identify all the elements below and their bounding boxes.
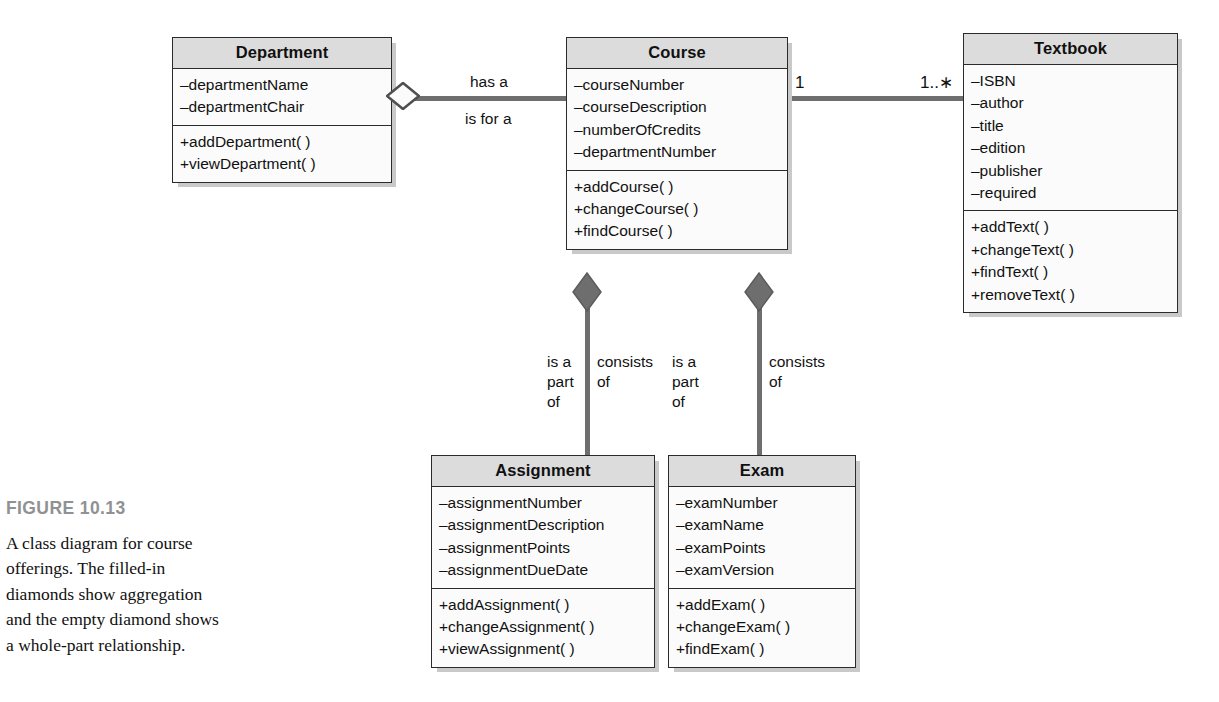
uml-operations-exam: +addExam( ) +changeExam( ) +findExam( )	[669, 588, 855, 667]
uml-attributes-exam: –examNumber –examName –examPoints –examV…	[669, 487, 855, 588]
figure-number: FIGURE 10.13	[6, 500, 221, 518]
uml-attribute: –departmentChair	[173, 96, 391, 118]
uml-class-exam[interactable]: Exam –examNumber –examName –examPoints –…	[668, 455, 856, 668]
uml-class-name-department: Department	[173, 38, 391, 69]
open-diamond-department	[386, 82, 420, 110]
uml-attribute: –departmentName	[173, 74, 391, 96]
uml-operation: +changeAssignment( )	[432, 616, 654, 638]
uml-class-assignment[interactable]: Assignment –assignmentNumber –assignment…	[431, 455, 655, 668]
uml-attribute: –author	[964, 92, 1177, 114]
uml-attributes-assignment: –assignmentNumber –assignmentDescription…	[432, 487, 654, 588]
figure-caption-text: A class diagram for course offerings. Th…	[6, 531, 221, 659]
uml-operation: +changeExam( )	[669, 616, 855, 638]
uml-operations-course: +addCourse( ) +changeCourse( ) +findCour…	[567, 170, 787, 249]
uml-attribute: –assignmentDueDate	[432, 559, 654, 581]
uml-operations-textbook: +addText( ) +changeText( ) +findText( ) …	[964, 210, 1177, 312]
edge-label-assignment-is-a-part-of: is a part of	[547, 352, 574, 412]
uml-operation: +findExam( )	[669, 638, 855, 660]
uml-operation: +viewAssignment( )	[432, 638, 654, 660]
uml-class-course[interactable]: Course –courseNumber –courseDescription …	[566, 37, 788, 250]
uml-attribute: –examNumber	[669, 492, 855, 514]
uml-operation: +findCourse( )	[567, 220, 787, 242]
uml-operation: +addCourse( )	[567, 176, 787, 198]
uml-attribute: –assignmentDescription	[432, 514, 654, 536]
uml-class-department[interactable]: Department –departmentName –departmentCh…	[172, 37, 392, 183]
edge-label-has-a: has a	[470, 72, 508, 92]
uml-operations-assignment: +addAssignment( ) +changeAssignment( ) +…	[432, 588, 654, 667]
uml-attribute: –publisher	[964, 160, 1177, 182]
uml-attribute: –numberOfCredits	[567, 119, 787, 141]
uml-attributes-department: –departmentName –departmentChair	[173, 69, 391, 125]
multiplicity-textbook-side: 1..∗	[920, 74, 953, 92]
filled-diamond-assignment	[570, 272, 604, 312]
edge-label-assignment-consists-of: consists of	[597, 352, 653, 392]
uml-class-name-course: Course	[567, 38, 787, 69]
uml-attribute: –examPoints	[669, 537, 855, 559]
uml-operation: +viewDepartment( )	[173, 153, 391, 175]
edge-department-course	[403, 96, 573, 101]
uml-attribute: –courseDescription	[567, 96, 787, 118]
uml-class-name-exam: Exam	[669, 456, 855, 487]
uml-operation: +changeText( )	[964, 239, 1177, 261]
uml-class-textbook[interactable]: Textbook –ISBN –author –title –edition –…	[963, 33, 1178, 313]
uml-attribute: –required	[964, 182, 1177, 204]
figure-caption: FIGURE 10.13 A class diagram for course …	[6, 500, 221, 658]
edge-label-exam-is-a-part-of: is a part of	[672, 352, 699, 412]
figure-page: FIGURE 10.13 A class diagram for course …	[0, 0, 1219, 702]
uml-attributes-textbook: –ISBN –author –title –edition –publisher…	[964, 65, 1177, 210]
uml-attribute: –ISBN	[964, 70, 1177, 92]
uml-operation: +findText( )	[964, 261, 1177, 283]
uml-operation: +addText( )	[964, 216, 1177, 238]
uml-operation: +addAssignment( )	[432, 594, 654, 616]
edge-label-is-for-a: is for a	[465, 109, 512, 129]
multiplicity-course-side: 1	[795, 74, 804, 92]
uml-operation: +changeCourse( )	[567, 198, 787, 220]
uml-attributes-course: –courseNumber –courseDescription –number…	[567, 69, 787, 170]
uml-attribute: –courseNumber	[567, 74, 787, 96]
edge-label-exam-consists-of: consists of	[769, 352, 825, 392]
uml-operation: +addExam( )	[669, 594, 855, 616]
uml-attribute: –assignmentNumber	[432, 492, 654, 514]
uml-attribute: –examVersion	[669, 559, 855, 581]
uml-class-name-textbook: Textbook	[964, 34, 1177, 65]
uml-operation: +removeText( )	[964, 284, 1177, 306]
uml-attribute: –departmentNumber	[567, 141, 787, 163]
uml-operations-department: +addDepartment( ) +viewDepartment( )	[173, 125, 391, 182]
uml-operation: +addDepartment( )	[173, 131, 391, 153]
uml-attribute: –edition	[964, 137, 1177, 159]
uml-attribute: –examName	[669, 514, 855, 536]
uml-class-name-assignment: Assignment	[432, 456, 654, 487]
edge-course-textbook	[786, 96, 968, 101]
uml-attribute: –title	[964, 115, 1177, 137]
uml-attribute: –assignmentPoints	[432, 537, 654, 559]
filled-diamond-exam	[742, 272, 776, 312]
